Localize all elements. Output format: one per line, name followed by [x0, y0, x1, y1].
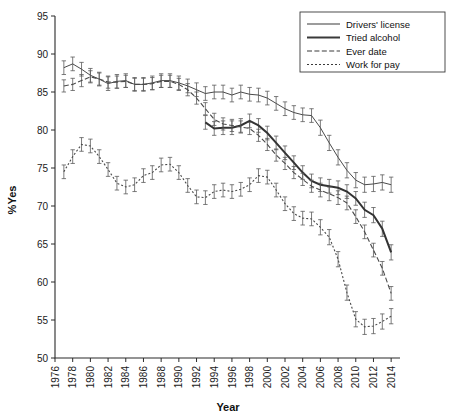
- y-tick-label: 55: [37, 315, 49, 326]
- x-tick-label: 1990: [173, 366, 184, 389]
- series-layer: [62, 57, 394, 334]
- legend-label-1[interactable]: Tried alcohol: [346, 32, 400, 43]
- x-tick-label: 2004: [297, 366, 308, 389]
- x-tick-label: 1984: [120, 366, 131, 389]
- y-axis-title: %Yes: [6, 186, 18, 215]
- x-tick-label: 1994: [209, 366, 220, 389]
- x-tick-label: 2010: [350, 366, 361, 389]
- legend-label-0[interactable]: Drivers' license: [346, 19, 410, 30]
- line-chart: 5055606570758085909519761978198019821984…: [0, 0, 453, 417]
- y-tick-label: 70: [37, 201, 49, 212]
- series-ever-date: [62, 71, 394, 301]
- y-tick-label: 90: [37, 49, 49, 60]
- y-tick-label: 60: [37, 277, 49, 288]
- legend-label-3[interactable]: Work for pay: [346, 59, 400, 70]
- y-tick-label: 65: [37, 239, 49, 250]
- x-tick-label: 1982: [103, 366, 114, 389]
- x-tick-label: 1976: [50, 366, 61, 389]
- x-tick-label: 2012: [368, 366, 379, 389]
- x-tick-label: 1992: [191, 366, 202, 389]
- x-tick-label: 1996: [227, 366, 238, 389]
- y-tick-label: 75: [37, 163, 49, 174]
- chart-figure: 5055606570758085909519761978198019821984…: [0, 0, 453, 417]
- x-tick-label: 2014: [386, 366, 397, 389]
- x-tick-label: 2006: [315, 366, 326, 389]
- series-drivers-license: [62, 57, 394, 192]
- x-tick-label: 1998: [244, 366, 255, 389]
- x-axis-title: Year: [216, 401, 240, 413]
- series-work-for-pay: [62, 138, 394, 335]
- chart-legend: Drivers' licenseTried alcoholEver dateWo…: [300, 12, 445, 72]
- x-tick-label: 2000: [262, 366, 273, 389]
- x-tick-label: 1978: [67, 366, 78, 389]
- x-tick-label: 2008: [333, 366, 344, 389]
- y-tick-label: 85: [37, 87, 49, 98]
- legend-label-2[interactable]: Ever date: [346, 46, 387, 57]
- x-tick-label: 1980: [85, 366, 96, 389]
- y-tick-label: 95: [37, 11, 49, 22]
- y-tick-label: 80: [37, 125, 49, 136]
- x-tick-label: 1988: [156, 366, 167, 389]
- y-tick-label: 50: [37, 353, 49, 364]
- x-tick-label: 2002: [280, 366, 291, 389]
- x-tick-label: 1986: [138, 366, 149, 389]
